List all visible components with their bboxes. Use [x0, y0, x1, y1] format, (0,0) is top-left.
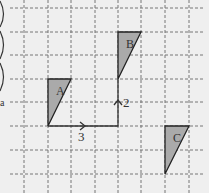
horizontal-shift-label: 3	[78, 129, 85, 144]
triangle-label: A	[56, 84, 65, 98]
translation-grid-diagram: a ABC 3 2	[0, 0, 209, 193]
left-brackets	[0, 1, 4, 91]
triangle-label: B	[126, 37, 134, 51]
vertical-shift-label: 2	[123, 95, 130, 110]
dashed-grid	[10, 0, 205, 193]
triangle-label: C	[173, 131, 181, 145]
margin-mark: a	[0, 97, 5, 108]
